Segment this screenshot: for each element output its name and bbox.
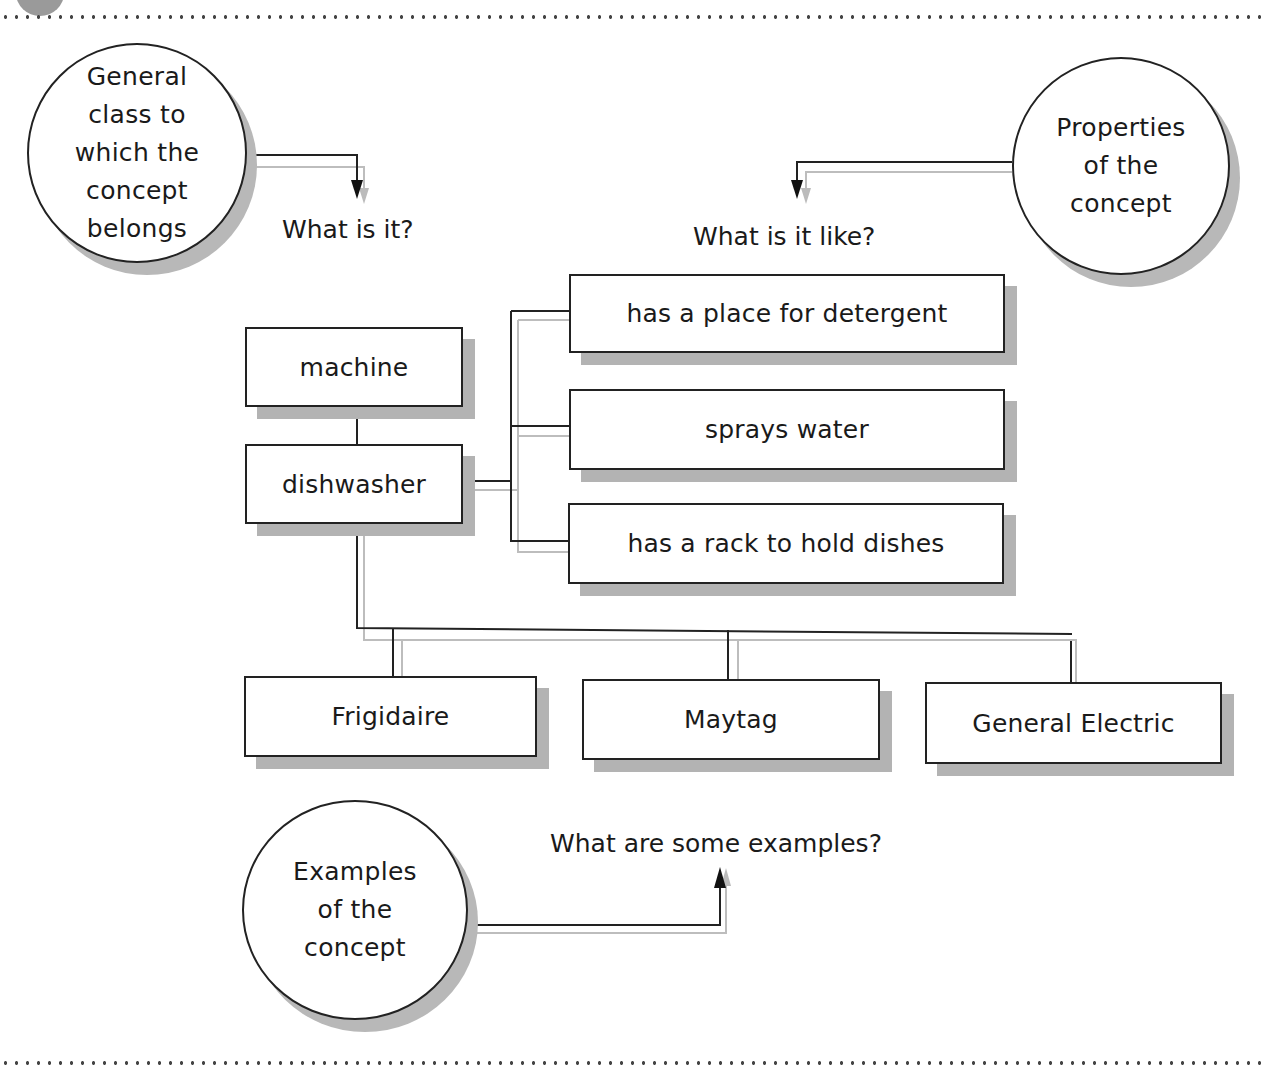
class-box-label: machine <box>300 353 409 382</box>
question-what-is-it: What is it? <box>282 215 414 244</box>
examples-circle: Examples of the concept <box>242 800 468 1020</box>
property-box: has a place for detergent <box>569 274 1005 353</box>
example-label: Maytag <box>684 705 778 734</box>
concept-box-label: dishwasher <box>282 470 426 499</box>
properties-circle: Properties of the concept <box>1012 57 1230 275</box>
general-class-circle: General class to which the concept belon… <box>27 43 247 263</box>
properties-label: Properties of the concept <box>1056 109 1185 223</box>
question-examples: What are some examples? <box>550 829 882 858</box>
property-label: sprays water <box>705 415 869 444</box>
property-label: has a rack to hold dishes <box>627 529 944 558</box>
example-box: Frigidaire <box>244 676 537 757</box>
example-label: Frigidaire <box>332 702 450 731</box>
example-label: General Electric <box>972 709 1174 738</box>
property-box: sprays water <box>569 389 1005 470</box>
examples-label: Examples of the concept <box>293 853 417 967</box>
property-box: has a rack to hold dishes <box>568 503 1004 584</box>
question-what-is-it-like: What is it like? <box>693 222 875 251</box>
class-box-machine: machine <box>245 327 463 407</box>
example-box: General Electric <box>925 682 1222 764</box>
general-class-label: General class to which the concept belon… <box>75 58 200 248</box>
concept-box-dishwasher: dishwasher <box>245 444 463 524</box>
example-box: Maytag <box>582 679 880 760</box>
property-label: has a place for detergent <box>626 299 947 328</box>
